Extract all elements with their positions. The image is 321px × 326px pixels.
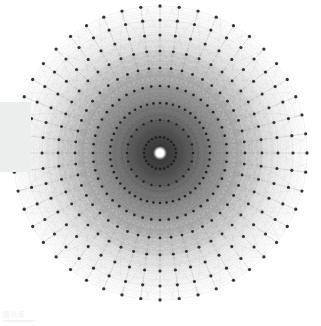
figure-canvas: 图片库 [0, 0, 321, 326]
watermark-text: 图片库 [3, 309, 26, 319]
center-hub-dot [157, 150, 163, 156]
side-panel[interactable] [0, 102, 31, 172]
watermark-rule [3, 320, 36, 322]
radial-mesh-figure [0, 0, 321, 326]
